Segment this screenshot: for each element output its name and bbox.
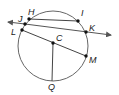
point-i: [76, 19, 79, 22]
label-q: Q: [48, 82, 55, 92]
label-i: I: [81, 8, 84, 18]
label-j: J: [17, 14, 23, 24]
point-j: [23, 22, 26, 25]
label-k: K: [89, 23, 96, 33]
point-l: [20, 28, 23, 31]
point-m: [84, 54, 87, 57]
chord-hi: [29, 19, 78, 21]
point-h: [27, 17, 30, 20]
label-l: L: [11, 27, 16, 37]
radius-cq: [52, 43, 53, 81]
circle-diagram: H I J K L C M Q: [0, 0, 119, 95]
point-c: [51, 41, 54, 44]
secant-line-jk: [25, 24, 111, 35]
label-c: C: [56, 33, 63, 43]
label-h: H: [28, 7, 35, 17]
label-m: M: [89, 55, 97, 65]
point-k: [84, 30, 87, 33]
